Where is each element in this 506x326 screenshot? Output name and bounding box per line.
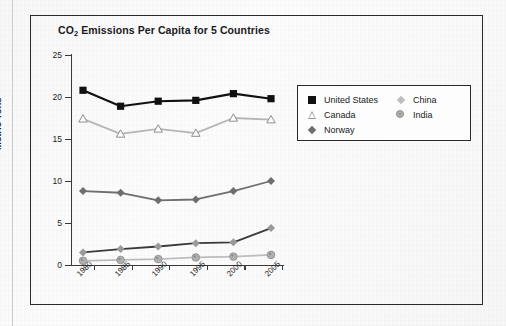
diamond-marker-icon bbox=[306, 124, 318, 136]
y-axis-tick bbox=[65, 181, 71, 182]
x-axis-tick bbox=[244, 265, 245, 270]
legend-label-canada: Canada bbox=[324, 110, 356, 120]
circle-marker-icon bbox=[117, 256, 125, 264]
series-canada bbox=[79, 114, 275, 137]
diamond-light-marker-icon bbox=[117, 245, 125, 253]
diamond-marker-icon bbox=[192, 195, 200, 203]
legend-item-united-states[interactable]: United States bbox=[306, 92, 378, 107]
y-axis-title: Metric Tons bbox=[0, 97, 3, 150]
diamond-light-marker-icon bbox=[154, 243, 162, 251]
square-marker-icon bbox=[230, 90, 237, 97]
diamond-light-marker-icon bbox=[395, 94, 407, 106]
y-axis-tick bbox=[65, 97, 71, 98]
triangle-open-marker-icon bbox=[79, 115, 87, 122]
diamond-marker-icon bbox=[154, 196, 162, 204]
chart-title: CO2 Emissions Per Capita for 5 Countries bbox=[58, 24, 270, 36]
y-axis-tick bbox=[65, 55, 71, 56]
diamond-light-marker-icon bbox=[267, 224, 275, 232]
square-marker-icon bbox=[192, 97, 199, 104]
series-china bbox=[79, 224, 275, 256]
square-marker-icon bbox=[306, 94, 318, 106]
diamond-light-marker-icon bbox=[79, 248, 87, 256]
chart-title-rest: Emissions Per Capita for 5 Countries bbox=[78, 24, 270, 36]
square-marker-icon bbox=[267, 95, 274, 102]
diamond-light-marker-icon bbox=[192, 239, 200, 247]
page-edge-line bbox=[12, 0, 13, 326]
y-axis-tick bbox=[65, 265, 71, 266]
y-axis-tick-label: 20 bbox=[40, 92, 62, 102]
x-axis-tick bbox=[282, 265, 283, 270]
series-line bbox=[83, 255, 271, 261]
y-axis-tick-label: 25 bbox=[40, 50, 62, 60]
series-line bbox=[83, 228, 271, 252]
series-india bbox=[79, 251, 275, 264]
legend-label-china: China bbox=[413, 95, 437, 105]
y-axis-tick-label: 0 bbox=[40, 260, 62, 270]
diamond-marker-icon bbox=[229, 187, 237, 195]
legend-label-india: India bbox=[413, 110, 433, 120]
circle-marker-icon bbox=[192, 254, 200, 262]
plot-area bbox=[72, 55, 282, 265]
square-marker-icon bbox=[117, 103, 124, 110]
legend-item-canada[interactable]: Canada bbox=[306, 107, 378, 122]
series-svg bbox=[72, 55, 282, 265]
diamond-marker-icon bbox=[79, 187, 87, 195]
y-axis-tick-label: 15 bbox=[40, 134, 62, 144]
square-marker-icon bbox=[79, 87, 86, 94]
diamond-light-marker-icon bbox=[229, 238, 237, 246]
circle-marker-icon bbox=[154, 255, 162, 263]
diamond-marker-icon bbox=[117, 189, 125, 197]
circle-marker-icon bbox=[395, 109, 407, 121]
legend-column-right: China India bbox=[395, 92, 437, 122]
legend-column-left: United States Canada Norway bbox=[306, 92, 378, 137]
series-norway bbox=[79, 177, 275, 204]
y-axis-tick-label: 10 bbox=[40, 176, 62, 186]
circle-marker-icon bbox=[79, 257, 87, 265]
legend-label-united-states: United States bbox=[324, 95, 378, 105]
y-axis-tick-label: 5 bbox=[40, 218, 62, 228]
legend-label-norway: Norway bbox=[324, 125, 355, 135]
circle-marker-icon bbox=[267, 251, 275, 259]
x-axis-tick bbox=[94, 265, 95, 270]
series-united-states bbox=[79, 87, 274, 110]
x-axis-line bbox=[71, 265, 284, 266]
diamond-marker-icon bbox=[267, 177, 275, 185]
chart-legend: United States Canada Norway China India bbox=[297, 85, 471, 141]
series-line bbox=[83, 181, 271, 200]
legend-item-india[interactable]: India bbox=[395, 107, 437, 122]
y-axis-tick bbox=[65, 139, 71, 140]
legend-item-norway[interactable]: Norway bbox=[306, 122, 378, 137]
series-line bbox=[83, 90, 271, 106]
chart-title-prefix: CO bbox=[58, 24, 74, 36]
square-marker-icon bbox=[155, 98, 162, 105]
series-line bbox=[83, 118, 271, 134]
chart-title-subscript: 2 bbox=[74, 29, 78, 38]
y-axis-tick bbox=[65, 223, 71, 224]
circle-marker-icon bbox=[230, 253, 238, 261]
legend-item-china[interactable]: China bbox=[395, 92, 437, 107]
x-axis-tick bbox=[169, 265, 170, 270]
triangle-marker-icon bbox=[306, 109, 318, 121]
